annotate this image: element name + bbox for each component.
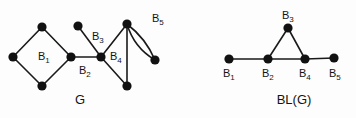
vertex-g3 [37,81,46,90]
block-label-block-line-graph-2: B3 [282,9,294,24]
block-label-graph-g-3: B4 [110,50,122,65]
block-label-base: B [152,12,159,24]
block-label-subscript: 2 [269,73,274,82]
block-label-subscript: 4 [306,73,311,82]
vertex-g2 [37,22,46,31]
vertex-b5 [329,53,338,62]
edge-g2-g4 [42,27,71,57]
block-label-block-line-graph-4: B5 [329,67,341,82]
block-label-subscript: 2 [86,70,91,79]
block-label-base: B [38,50,45,62]
graph-figure-svg: B1B2B3B4B5GB1B2B3B4B5BL(G) [0,0,356,118]
block-label-block-line-graph-0: B1 [223,67,235,82]
block-label-graph-g-4: B5 [152,12,164,27]
block-label-subscript: 1 [45,56,50,65]
panel-caption-block-line-graph: BL(G) [277,92,312,107]
block-label-base: B [262,67,269,79]
vertex-b3 [283,23,292,32]
block-label-subscript: 3 [99,36,104,45]
vertex-b2 [263,54,272,63]
curved-edge-g7-g9-1 [127,24,155,60]
block-label-block-line-graph-3: B4 [299,67,311,82]
vertex-g4 [66,52,75,61]
curved-edge-g7-g9-0 [127,24,155,60]
vertex-g7 [122,19,131,28]
vertex-b4 [300,54,309,63]
block-label-base: B [92,30,99,42]
vertex-g6 [96,52,105,61]
edge-b3-b4 [288,28,305,59]
panel-caption-graph-g: G [75,92,85,107]
vertex-g9 [150,55,159,64]
block-label-subscript: 3 [289,15,294,24]
figure-container: B1B2B3B4B5GB1B2B3B4B5BL(G) [0,0,356,118]
block-label-graph-g-2: B3 [92,30,104,45]
block-label-block-line-graph-1: B2 [262,67,274,82]
block-label-graph-g-1: B2 [79,64,91,79]
panel-graph-g: B1B2B3B4B5G [8,12,164,107]
block-label-base: B [299,67,306,79]
block-label-graph-g-0: B1 [38,50,50,65]
block-label-base: B [282,9,289,21]
block-label-base: B [223,67,230,79]
edge-b2-b3 [268,28,288,59]
block-label-subscript: 5 [336,73,341,82]
vertex-g1 [8,52,17,61]
block-label-base: B [329,67,336,79]
block-label-base: B [79,64,86,76]
block-label-subscript: 5 [159,18,164,27]
vertex-g8 [122,81,131,90]
block-label-subscript: 1 [230,73,235,82]
vertex-g5 [73,21,82,30]
block-label-base: B [110,50,117,62]
block-label-subscript: 4 [117,56,122,65]
panel-block-line-graph: B1B2B3B4B5BL(G) [223,9,341,107]
vertex-b1 [224,54,233,63]
